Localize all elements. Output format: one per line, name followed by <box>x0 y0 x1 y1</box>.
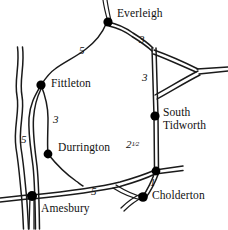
road-amesbury-south <box>29 197 34 229</box>
road-durrington-trunk <box>48 154 83 186</box>
place-label-fittleton: Fittleton <box>51 78 91 90</box>
place-label-amesbury: Amesbury <box>41 203 90 215</box>
distance-label-amesbury-fittleton-west: 5 <box>21 134 27 145</box>
road-distance-map: Everleigh Fittleton South Tidworth Durri… <box>0 0 228 230</box>
distance-label-everleigh-fittleton: 5 <box>79 45 85 56</box>
place-label-south-tidworth: South Tidworth <box>163 106 225 131</box>
road-triangle-south-tidworth <box>152 48 158 116</box>
road-triangle-lower-limb <box>155 71 200 99</box>
distance-label-everleigh-junction: 3 <box>139 34 145 45</box>
distance-label-junction-south-tidworth: 3 <box>142 72 148 83</box>
node-south-tidworth[interactable] <box>150 111 159 120</box>
place-label-cholderton: Cholderton <box>152 190 205 202</box>
road-everleigh-triangle <box>108 22 153 51</box>
road-triangle-diagonal <box>154 50 199 72</box>
place-label-durrington: Durrington <box>58 142 110 154</box>
node-everleigh[interactable] <box>103 17 112 26</box>
node-junction-east[interactable] <box>152 167 161 176</box>
road-everleigh-fittleton <box>41 24 106 85</box>
node-fittleton[interactable] <box>36 80 45 89</box>
road-east-exit <box>197 67 228 74</box>
distance-label-fittleton-durrington: 3 <box>53 114 59 125</box>
distance-label-south-tidworth-cholderton: 21⁄2 <box>126 139 139 150</box>
distance-label-amesbury-cholderton: 5 <box>91 186 97 197</box>
node-amesbury[interactable] <box>27 191 37 201</box>
road-fittleton-durrington <box>41 85 48 154</box>
road-west-inner <box>29 85 41 229</box>
distance-fraction-part: 1⁄2 <box>132 140 140 148</box>
place-label-everleigh: Everleigh <box>117 8 163 20</box>
node-cholderton[interactable] <box>138 192 148 202</box>
place-label-south-tidworth-line2: Tidworth <box>163 119 206 131</box>
distance-label-cholderton-junction: 1 <box>150 177 156 188</box>
road-south-tidworth-junction <box>154 116 159 170</box>
node-durrington[interactable] <box>44 150 53 159</box>
place-label-south-tidworth-line1: South <box>163 106 190 118</box>
